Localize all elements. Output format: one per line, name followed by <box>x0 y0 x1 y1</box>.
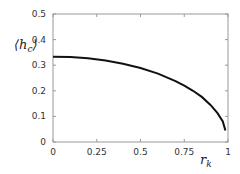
x-tick-label: 0 <box>50 147 56 157</box>
plot-frame <box>53 14 228 142</box>
y-tick-label: 0.5 <box>32 9 46 19</box>
data-line <box>53 57 225 131</box>
x-tick-label: 0.5 <box>133 147 147 157</box>
y-tick-label: 0.1 <box>32 111 46 121</box>
x-tick-label: 0.25 <box>87 147 107 157</box>
y-tick-label: 0.3 <box>32 60 46 70</box>
y-tick-label: 0.2 <box>32 86 46 96</box>
line-chart: 00.250.50.75100.10.20.30.40.5⟨hc⟩rk <box>0 0 240 174</box>
x-axis-label: rk <box>200 152 212 169</box>
x-tick-label: 0.75 <box>174 147 194 157</box>
x-tick-label: 1 <box>225 147 231 157</box>
y-axis-label: ⟨hc⟩ <box>14 37 38 54</box>
y-tick-label: 0 <box>40 137 46 147</box>
